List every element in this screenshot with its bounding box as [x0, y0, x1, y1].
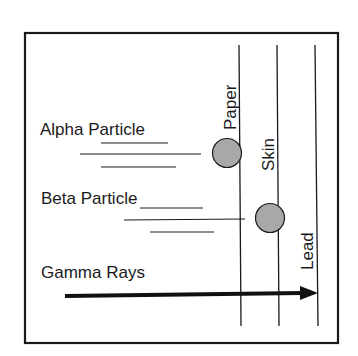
lead-barrier-line [315, 45, 318, 326]
gamma-label: Gamma Rays [41, 263, 145, 282]
beta-label: Beta Particle [41, 189, 137, 208]
gamma-ray-arrowhead-icon [300, 286, 318, 300]
paper-label: Paper [221, 84, 240, 130]
lead-label: Lead [298, 232, 317, 270]
skin-label: Skin [259, 138, 278, 171]
alpha-particle-icon [213, 139, 242, 168]
beta-track-middle [124, 219, 245, 220]
gamma-ray-arrow-shaft [65, 293, 303, 296]
beta-particle-icon [256, 204, 285, 233]
alpha-label: Alpha Particle [40, 120, 145, 139]
skin-barrier-line [277, 45, 279, 326]
radiation-penetration-diagram: Paper Skin Lead Alpha Particle Beta Part… [0, 0, 358, 356]
